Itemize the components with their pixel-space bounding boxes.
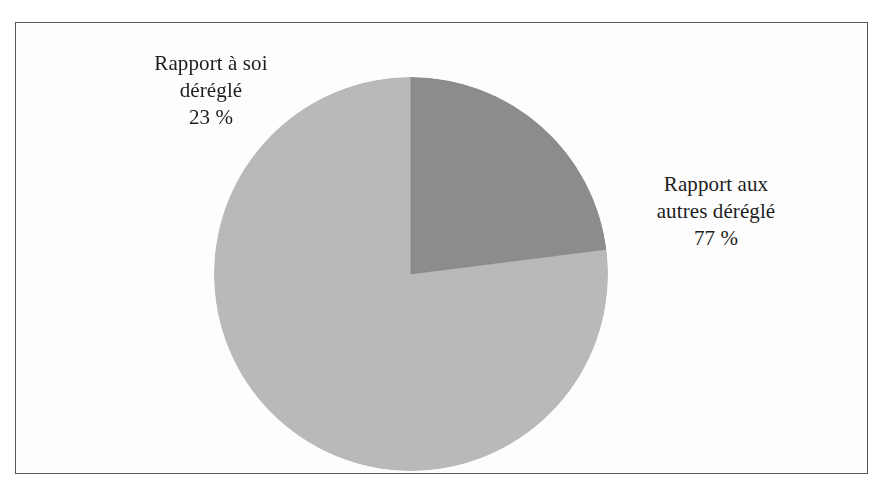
figure-frame: Rapport à soi déréglé 23 % Rapport aux a… bbox=[15, 22, 868, 474]
pie-slice-label-line-1: Rapport aux bbox=[616, 171, 816, 198]
pie-slice-label-line-2: autres déréglé bbox=[616, 198, 816, 225]
pie-slice-value-rapport-aux-autres: 77 % bbox=[616, 225, 816, 252]
pie-slice-value-rapport-a-soi: 23 % bbox=[96, 104, 326, 131]
pie-chart-canvas bbox=[214, 77, 608, 471]
screenshot-root: Rapport à soi déréglé 23 % Rapport aux a… bbox=[0, 0, 883, 488]
pie-slice-label-rapport-aux-autres: Rapport aux autres déréglé 77 % bbox=[616, 171, 816, 252]
pie-chart bbox=[214, 77, 608, 471]
pie-slice-label-line-2: déréglé bbox=[96, 77, 326, 104]
pie-slice-label-rapport-a-soi: Rapport à soi déréglé 23 % bbox=[96, 50, 326, 131]
pie-slice-label-line-1: Rapport à soi bbox=[96, 50, 326, 77]
